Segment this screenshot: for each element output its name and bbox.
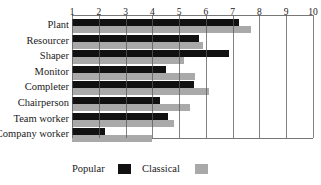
gridline [233, 15, 234, 138]
bar-popular [72, 113, 168, 120]
gridline [179, 15, 180, 138]
bar-popular [72, 128, 105, 135]
bar-popular [72, 97, 160, 104]
category-label: Shaper [40, 50, 69, 61]
legend-label-popular: Popular [72, 163, 105, 174]
bar-popular [72, 35, 199, 42]
bar-classical [72, 73, 195, 80]
category-label: Plant [47, 19, 69, 30]
category-label: Chairperson [18, 97, 69, 108]
bar-classical [72, 57, 184, 64]
gridline [286, 15, 287, 138]
bar-classical [72, 135, 152, 142]
x-axis-line [72, 15, 313, 16]
bar-classical [72, 120, 174, 127]
category-label: Completer [25, 81, 69, 92]
gridline [259, 15, 260, 138]
legend-swatch-classical [195, 164, 208, 174]
gridline [99, 15, 100, 138]
gridline [126, 15, 127, 138]
bar-popular [72, 19, 239, 26]
legend-swatch-popular [118, 164, 131, 174]
gridline [313, 15, 314, 138]
bar-popular [72, 81, 194, 88]
category-label: Company worker [0, 128, 69, 139]
category-label: Team worker [13, 113, 69, 124]
category-label: Monitor [35, 66, 69, 77]
gridline [152, 15, 153, 138]
bar-classical [72, 42, 203, 49]
horizontal-bar-chart: 12345678910 PlantResourcerShaperMonitorC… [0, 0, 321, 185]
bar-classical [72, 104, 190, 111]
legend-label-classical: Classical [142, 163, 180, 174]
bar-classical [72, 88, 209, 95]
gridline [206, 15, 207, 138]
category-label: Resourcer [26, 35, 69, 46]
gridline [72, 15, 73, 138]
